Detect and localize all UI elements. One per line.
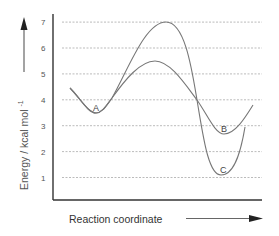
y-tick-7: 7 — [41, 18, 46, 27]
curve-higher-barrier-to-c — [70, 22, 245, 175]
x-axis-label: Reaction coordinate — [69, 213, 163, 225]
gridlines — [62, 22, 262, 177]
y-tick-4: 4 — [41, 96, 46, 105]
energy-diagram: 1234567 A B C Energy / kcal mol-1 Reacti… — [0, 0, 279, 236]
label-point-a: A — [93, 103, 99, 113]
y-tick-labels: 1234567 — [41, 18, 46, 182]
y-axis-label: Energy / kcal mol-1 — [17, 100, 30, 190]
y-tick-2: 2 — [41, 148, 46, 157]
label-point-b: B — [221, 124, 227, 134]
label-point-c: C — [220, 165, 227, 175]
y-tick-6: 6 — [41, 44, 46, 53]
y-tick-1: 1 — [41, 174, 46, 183]
reaction-right-arrow-icon — [249, 215, 263, 222]
energy-up-arrow-icon — [21, 17, 28, 30]
y-axis-title: Energy / kcal mol-1 — [17, 100, 30, 190]
y-tick-3: 3 — [41, 122, 46, 131]
y-tick-5: 5 — [41, 70, 46, 79]
